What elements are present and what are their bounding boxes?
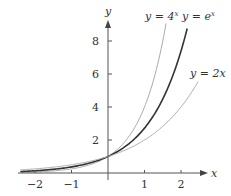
- label-2x: y = 2x: [189, 67, 226, 80]
- exponential-chart: −2−112 2468 x y y = 4x y = ex y = 2x: [0, 0, 231, 196]
- x-tick-label: −1: [63, 178, 79, 191]
- curve-e-power-x: [20, 28, 187, 171]
- x-tick-label: 2: [178, 178, 185, 191]
- label-4-power-x: y = 4x: [144, 10, 178, 23]
- curves: [20, 23, 198, 172]
- y-axis-label: y: [104, 5, 112, 18]
- x-tick-label: 1: [141, 178, 148, 191]
- label-e-power-x: y = ex: [181, 10, 215, 23]
- x-tick-label: −2: [27, 178, 43, 191]
- x-axis-arrow-icon: [200, 170, 208, 176]
- y-tick-label: 2: [92, 134, 99, 147]
- x-axis-label: x: [211, 167, 218, 180]
- y-tick-label: 6: [92, 68, 99, 81]
- y-tick-label: 8: [92, 35, 99, 48]
- y-tick-label: 4: [92, 101, 99, 114]
- y-ticks: 2468: [92, 35, 112, 147]
- y-axis-arrow-icon: [105, 20, 111, 28]
